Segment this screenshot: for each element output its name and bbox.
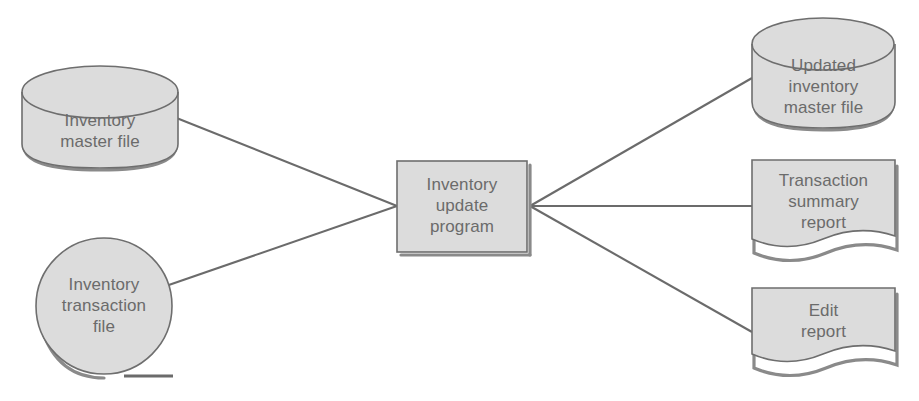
node-inventory-master-file[interactable] [22,66,178,170]
flowchart-graphics [0,0,919,401]
connector-program-to-edit-report [530,206,752,332]
node-transaction-summary-report[interactable] [752,160,897,261]
flowchart-canvas: Inventory master file Inventory transact… [0,0,919,401]
connector-master-file-to-program [174,117,397,206]
node-edit-report[interactable] [752,288,897,376]
edit-doc-fill [752,288,895,362]
process-box-fill [397,161,527,252]
summary-doc-fill [752,160,895,247]
node-updated-inventory-master-file[interactable] [752,18,895,130]
connector-transaction-file-to-program [163,206,397,287]
node-inventory-transaction-file[interactable] [36,238,173,378]
node-inventory-update-program[interactable] [397,161,530,255]
connector-program-to-updated-master-file [530,78,752,206]
